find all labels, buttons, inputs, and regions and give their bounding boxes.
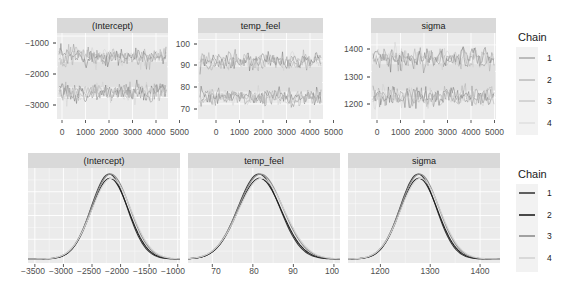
svg-text:3000: 3000 bbox=[277, 127, 296, 137]
svg-text:−2000: −2000 bbox=[105, 266, 129, 276]
y-tick: 1400 bbox=[344, 44, 363, 54]
svg-text:90: 90 bbox=[288, 266, 298, 276]
svg-text:0: 0 bbox=[375, 127, 380, 137]
svg-text:4: 4 bbox=[547, 118, 552, 128]
x-ticks: 1200 1300 1400 bbox=[371, 266, 490, 276]
svg-text:4: 4 bbox=[547, 253, 552, 263]
y-tick: 90 bbox=[181, 60, 191, 70]
svg-text:4000: 4000 bbox=[147, 127, 166, 137]
svg-text:1000: 1000 bbox=[76, 127, 95, 137]
y-tick: 1200 bbox=[344, 99, 363, 109]
svg-text:3: 3 bbox=[547, 96, 552, 106]
svg-text:70: 70 bbox=[211, 266, 221, 276]
svg-text:1200: 1200 bbox=[371, 266, 390, 276]
strip-label: (Intercept) bbox=[92, 21, 133, 31]
strip-label: (Intercept) bbox=[83, 156, 124, 166]
svg-text:1: 1 bbox=[547, 188, 552, 198]
trace-panel-sigma: sigma 1400 1300 1200 0 1000 2000 3000 40… bbox=[344, 18, 504, 137]
svg-text:80: 80 bbox=[249, 266, 259, 276]
y-tick: 80 bbox=[181, 82, 191, 92]
svg-text:2: 2 bbox=[547, 210, 552, 220]
density-panel-intercept: (Intercept) −3500 −3000 −2500 −2000 −150… bbox=[21, 153, 185, 276]
x-ticks: −3500 −3000 −2500 −2000 −1500 −1000 bbox=[21, 266, 185, 276]
svg-text:5000: 5000 bbox=[485, 127, 504, 137]
svg-text:3000: 3000 bbox=[438, 127, 457, 137]
strip-label: temp_feel bbox=[244, 156, 284, 166]
legend-title: Chain bbox=[518, 31, 547, 43]
svg-text:2: 2 bbox=[547, 75, 552, 85]
y-tick: 100 bbox=[176, 39, 190, 49]
mcmc-diagnostics-figure: (Intercept) −1000 −2000 −3000 0 1000 200… bbox=[0, 0, 577, 291]
x-ticks: 0 1000 2000 3000 4000 5000 bbox=[214, 127, 344, 137]
svg-text:2000: 2000 bbox=[100, 127, 119, 137]
strip-label: temp_feel bbox=[241, 21, 281, 31]
svg-text:−3000: −3000 bbox=[49, 266, 73, 276]
svg-text:5000: 5000 bbox=[324, 127, 343, 137]
svg-text:1000: 1000 bbox=[391, 127, 410, 137]
svg-text:1: 1 bbox=[547, 53, 552, 63]
svg-text:3000: 3000 bbox=[123, 127, 142, 137]
x-ticks: 0 1000 2000 3000 4000 5000 bbox=[375, 127, 505, 137]
y-tick: −2000 bbox=[25, 69, 49, 79]
svg-text:4000: 4000 bbox=[301, 127, 320, 137]
svg-text:1400: 1400 bbox=[471, 266, 490, 276]
svg-text:0: 0 bbox=[214, 127, 219, 137]
svg-text:2000: 2000 bbox=[254, 127, 273, 137]
svg-text:−3500: −3500 bbox=[21, 266, 45, 276]
svg-text:1000: 1000 bbox=[230, 127, 249, 137]
x-ticks: 0 1000 2000 3000 4000 5000 bbox=[60, 127, 190, 137]
y-tick: 1300 bbox=[344, 72, 363, 82]
svg-text:0: 0 bbox=[60, 127, 65, 137]
density-legend: Chain 1 2 3 4 bbox=[516, 168, 552, 272]
density-panel-temp-feel: temp_feel 70 80 90 100 bbox=[188, 153, 340, 276]
x-ticks: 70 80 90 100 bbox=[211, 266, 339, 276]
svg-text:−2500: −2500 bbox=[77, 266, 101, 276]
svg-text:−1000: −1000 bbox=[161, 266, 185, 276]
strip-label: sigma bbox=[412, 156, 436, 166]
y-tick: −3000 bbox=[25, 100, 49, 110]
strip-label: sigma bbox=[421, 21, 445, 31]
trace-panel-temp-feel: temp_feel 100 90 80 70 0 1000 2000 3000 … bbox=[176, 18, 343, 137]
y-tick: 70 bbox=[181, 104, 191, 114]
svg-text:3: 3 bbox=[547, 231, 552, 241]
svg-text:100: 100 bbox=[325, 266, 339, 276]
trace-panel-intercept: (Intercept) −1000 −2000 −3000 0 1000 200… bbox=[25, 18, 189, 137]
svg-text:1300: 1300 bbox=[421, 266, 440, 276]
density-panel-sigma: sigma 1200 1300 1400 bbox=[348, 153, 500, 276]
svg-text:2000: 2000 bbox=[415, 127, 434, 137]
trace-legend: Chain 1 2 3 4 bbox=[516, 31, 552, 135]
legend-title: Chain bbox=[518, 168, 547, 180]
svg-text:−1500: −1500 bbox=[133, 266, 157, 276]
y-tick: −1000 bbox=[25, 38, 49, 48]
svg-text:5000: 5000 bbox=[170, 127, 189, 137]
svg-text:4000: 4000 bbox=[462, 127, 481, 137]
